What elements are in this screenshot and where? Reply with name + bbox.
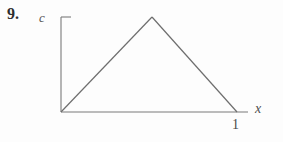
- problem-number-label: 9.: [7, 6, 19, 22]
- x-axis-tick-label-1: 1: [232, 118, 239, 132]
- y-axis-label: c: [39, 11, 45, 24]
- triangle-rising-edge: [61, 17, 152, 112]
- x-axis-label: x: [255, 102, 261, 116]
- triangle-falling-edge: [152, 17, 237, 112]
- figure-container: 9. c x 1: [0, 0, 283, 142]
